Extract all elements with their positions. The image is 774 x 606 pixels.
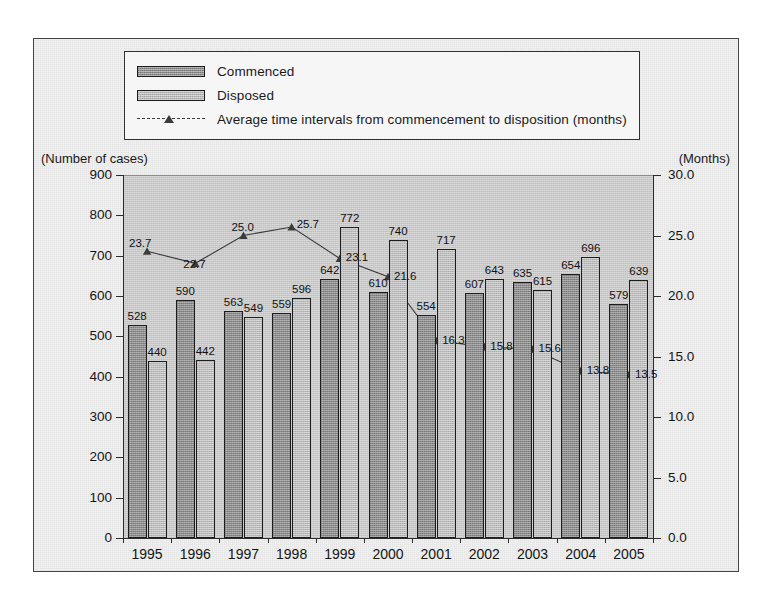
legend-label-commenced: Commenced — [217, 64, 294, 79]
line-value-label: 25.7 — [297, 218, 319, 230]
x-axis-tick — [268, 538, 269, 543]
x-axis-tick — [605, 538, 606, 543]
left-axis-tick-label: 200 — [89, 449, 112, 464]
line-value-label: 15.6 — [539, 342, 561, 354]
bar-disposed — [485, 279, 504, 538]
x-axis-label: 2004 — [557, 546, 605, 562]
left-axis-tick-label: 400 — [89, 369, 112, 384]
line-value-label: 23.1 — [346, 251, 368, 263]
bar-disposed — [389, 240, 408, 538]
bar-value-label-disposed: 596 — [286, 283, 318, 295]
bar-commenced — [224, 311, 243, 538]
x-axis-line — [116, 538, 661, 539]
x-axis-label: 2000 — [364, 546, 412, 562]
bar-disposed — [148, 361, 167, 538]
line-marker — [239, 232, 247, 240]
chart-legend: Commenced Disposed Average time interval… — [124, 51, 640, 140]
line-value-label: 25.0 — [231, 221, 253, 233]
x-axis-tick — [557, 538, 558, 543]
x-axis-tick — [171, 538, 172, 543]
line-value-label: 16.3 — [442, 334, 464, 346]
legend-item-disposed: Disposed — [137, 83, 629, 107]
bar-disposed — [196, 360, 215, 538]
bar-value-label-commenced: 528 — [121, 310, 153, 322]
line-value-label: 23.7 — [129, 237, 151, 249]
right-axis-tick — [653, 538, 661, 539]
line-value-label: 13.8 — [587, 364, 609, 376]
left-axis-tick-label: 600 — [89, 288, 112, 303]
right-axis-tick-label: 0.0 — [668, 530, 687, 545]
right-axis-tick-label: 10.0 — [668, 409, 694, 424]
right-axis-tick — [653, 296, 661, 297]
legend-item-average-time: Average time intervals from commencement… — [137, 107, 629, 131]
figure-frame: Commenced Disposed Average time interval… — [33, 38, 739, 572]
x-axis-tick — [219, 538, 220, 543]
line-value-label: 13.5 — [635, 368, 657, 380]
line-value-label: 22.7 — [183, 258, 205, 270]
left-axis-tick-label: 300 — [89, 409, 112, 424]
bar-swatch-light-icon — [137, 90, 205, 101]
left-axis-tick-label: 800 — [89, 207, 112, 222]
bar-disposed — [292, 298, 311, 538]
left-axis-tick — [116, 256, 124, 257]
bar-commenced — [609, 304, 628, 538]
bar-value-label-disposed: 615 — [527, 275, 559, 287]
bar-swatch-dark-icon — [137, 66, 205, 77]
left-axis-tick-label: 900 — [89, 167, 112, 182]
x-axis-tick — [364, 538, 365, 543]
bar-commenced — [417, 315, 436, 538]
bar-commenced — [176, 300, 195, 538]
x-axis-label: 2002 — [460, 546, 508, 562]
x-axis-tick — [508, 538, 509, 543]
x-axis-tick — [460, 538, 461, 543]
line-value-label: 21.6 — [394, 270, 416, 282]
bar-value-label-disposed: 696 — [575, 242, 607, 254]
bar-disposed — [437, 249, 456, 538]
bar-disposed — [581, 257, 600, 538]
x-axis-label: 2003 — [508, 546, 556, 562]
x-axis-label: 2001 — [412, 546, 460, 562]
bar-commenced — [369, 292, 388, 538]
chart-screenshot: Commenced Disposed Average time interval… — [0, 0, 774, 606]
right-axis-tick — [653, 357, 661, 358]
x-axis-label: 1996 — [171, 546, 219, 562]
legend-item-commenced: Commenced — [137, 59, 629, 83]
left-axis-tick — [116, 175, 124, 176]
left-axis-tick — [116, 457, 124, 458]
bar-commenced — [513, 282, 532, 538]
bar-value-label-disposed: 717 — [430, 234, 462, 246]
bar-disposed — [533, 290, 552, 538]
x-axis-label: 1999 — [316, 546, 364, 562]
right-axis-tick-label: 15.0 — [668, 349, 694, 364]
legend-label-average-time: Average time intervals from commencement… — [217, 112, 627, 127]
bar-disposed — [629, 280, 648, 538]
bar-disposed — [244, 317, 263, 538]
right-axis-tick-label: 25.0 — [668, 228, 694, 243]
right-axis-tick — [653, 236, 661, 237]
right-axis-tick — [653, 478, 661, 479]
bar-commenced — [320, 279, 339, 538]
left-axis-tick — [116, 296, 124, 297]
x-axis-label: 1997 — [219, 546, 267, 562]
line-marker — [287, 223, 295, 231]
right-axis-tick-label: 5.0 — [668, 470, 687, 485]
left-axis-tick — [116, 336, 124, 337]
bar-value-label-disposed: 772 — [334, 212, 366, 224]
bar-commenced — [272, 313, 291, 538]
right-axis-tick-label: 20.0 — [668, 288, 694, 303]
left-axis-tick-label: 700 — [89, 248, 112, 263]
bar-commenced — [465, 293, 484, 538]
x-axis-label: 1998 — [268, 546, 316, 562]
bar-disposed — [340, 227, 359, 538]
left-axis-tick — [116, 377, 124, 378]
left-axis-tick — [116, 498, 124, 499]
bar-value-label-disposed: 639 — [623, 265, 655, 277]
left-axis-tick-label: 100 — [89, 490, 112, 505]
bar-commenced — [561, 274, 580, 538]
right-axis-tick-label: 30.0 — [668, 167, 694, 182]
left-axis-tick-label: 500 — [89, 328, 112, 343]
line-value-label: 15.8 — [490, 340, 512, 352]
bar-value-label-disposed: 442 — [189, 345, 221, 357]
bar-value-label-disposed: 440 — [141, 346, 173, 358]
bar-value-label-disposed: 740 — [382, 225, 414, 237]
